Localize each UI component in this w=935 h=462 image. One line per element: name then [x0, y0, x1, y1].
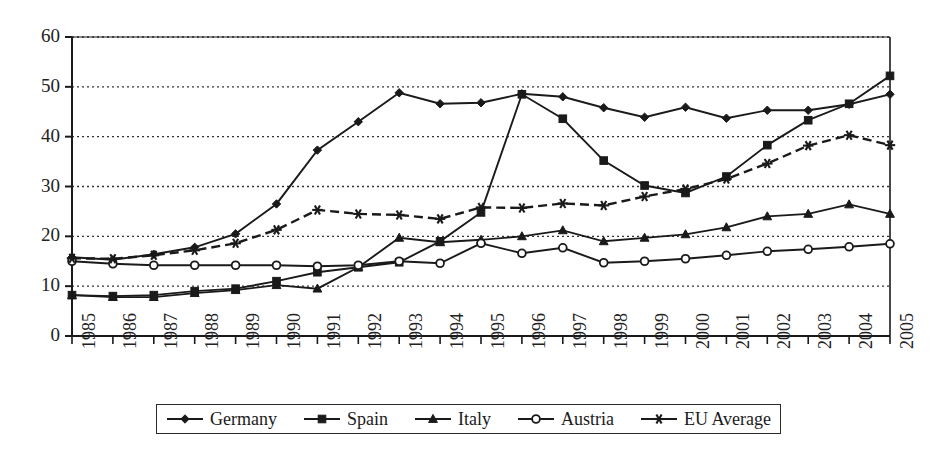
diamond-marker-icon [436, 100, 444, 108]
asterisk-marker-icon [639, 192, 649, 201]
x-axis-tick-label: 1997 [570, 313, 591, 349]
circle-marker-icon [314, 262, 322, 270]
chart-figure: 0102030405060 19851986198719881989199019… [0, 0, 935, 462]
asterisk-marker-icon [517, 203, 527, 212]
circle-marker-icon [273, 261, 281, 269]
circle-marker-icon [517, 411, 555, 427]
legend-item-germany[interactable]: Germany [166, 409, 277, 430]
x-axis-tick-label: 1994 [447, 313, 468, 349]
legend-item-spain[interactable]: Spain [303, 409, 388, 430]
diamond-marker-icon [166, 411, 204, 427]
x-axis-tick-label: 1995 [488, 313, 509, 349]
x-axis-tick-label: 1985 [79, 313, 100, 349]
asterisk-marker-icon [271, 225, 281, 234]
x-axis-tick-label: 1988 [202, 313, 223, 349]
circle-marker-icon [845, 243, 853, 251]
x-axis-tick-label: 1992 [365, 313, 386, 349]
legend-item-austria[interactable]: Austria [517, 409, 614, 430]
diamond-marker-icon [722, 114, 730, 122]
legend-item-eu-average[interactable]: EU Average [640, 409, 771, 430]
diamond-marker-icon [600, 104, 608, 112]
x-axis-tick-label: 1986 [120, 313, 141, 349]
asterisk-marker-icon [640, 411, 678, 427]
square-marker-icon [477, 209, 485, 217]
circle-marker-icon [532, 415, 540, 423]
x-axis-tick-label: 1998 [611, 313, 632, 349]
square-marker-icon [559, 115, 567, 123]
y-axis-tick-label: 20 [20, 224, 60, 246]
diamond-marker-icon [477, 99, 485, 107]
x-axis-tick-label: 1990 [284, 313, 305, 349]
circle-marker-icon [477, 239, 485, 247]
x-axis-tick-label: 2005 [897, 313, 918, 349]
x-axis-tick-label: 2003 [815, 313, 836, 349]
y-axis-tick-label: 30 [20, 175, 60, 197]
axis-ticks [65, 37, 890, 344]
circle-marker-icon [763, 247, 771, 255]
circle-marker-icon [641, 257, 649, 265]
x-axis-tick-label: 2002 [774, 313, 795, 349]
triangle-marker-icon [845, 200, 854, 208]
x-axis-tick-label: 1989 [243, 313, 264, 349]
x-axis-tick-label: 1999 [652, 313, 673, 349]
circle-marker-icon [436, 259, 444, 267]
triangle-marker-icon [558, 226, 567, 234]
circle-marker-icon [395, 257, 403, 265]
x-axis-tick-label: 1987 [161, 313, 182, 349]
square-marker-icon [518, 91, 526, 99]
circle-marker-icon [109, 260, 117, 268]
asterisk-marker-icon [844, 131, 854, 140]
legend-label: Italy [458, 409, 491, 430]
triangle-marker-icon [414, 411, 452, 427]
diamond-marker-icon [886, 90, 894, 98]
legend-label: Austria [561, 409, 614, 430]
circle-marker-icon [354, 261, 362, 269]
square-marker-icon [764, 141, 772, 149]
asterisk-marker-icon [394, 210, 404, 219]
circle-marker-icon [232, 261, 240, 269]
circle-marker-icon [191, 261, 199, 269]
legend-item-italy[interactable]: Italy [414, 409, 491, 430]
asterisk-marker-icon [558, 199, 568, 208]
square-marker-icon [303, 411, 341, 427]
circle-marker-icon [150, 261, 158, 269]
x-axis-tick-label: 2004 [856, 313, 877, 349]
line-chart-canvas [0, 0, 935, 462]
square-marker-icon [845, 100, 853, 108]
circle-marker-icon [518, 249, 526, 257]
circle-marker-icon [723, 251, 731, 259]
asterisk-marker-icon [312, 205, 322, 214]
diamond-marker-icon [681, 103, 689, 111]
x-axis-tick-label: 1993 [406, 313, 427, 349]
square-marker-icon [641, 182, 649, 190]
legend-label: Germany [210, 409, 277, 430]
legend-label: EU Average [684, 409, 771, 430]
square-marker-icon [318, 415, 326, 423]
y-axis-tick-label: 10 [20, 274, 60, 296]
circle-marker-icon [682, 255, 690, 263]
x-axis-tick-label: 2001 [733, 313, 754, 349]
asterisk-marker-icon [762, 159, 772, 168]
circle-marker-icon [559, 244, 567, 252]
chart-legend: GermanySpainItalyAustriaEU Average [156, 404, 781, 434]
y-axis-tick-label: 40 [20, 125, 60, 147]
asterisk-marker-icon [230, 239, 240, 248]
diamond-marker-icon [181, 415, 189, 423]
asterisk-marker-icon [599, 201, 609, 210]
asterisk-marker-icon [353, 209, 363, 218]
circle-marker-icon [600, 259, 608, 267]
diamond-marker-icon [559, 93, 567, 101]
square-marker-icon [886, 72, 894, 80]
legend-label: Spain [347, 409, 388, 430]
y-axis-tick-label: 50 [20, 75, 60, 97]
asterisk-marker-icon [803, 141, 813, 150]
x-axis-tick-label: 1991 [324, 313, 345, 349]
data-series-layer [67, 72, 895, 300]
square-marker-icon [804, 116, 812, 124]
x-axis-tick-label: 2000 [693, 313, 714, 349]
diamond-marker-icon [640, 113, 648, 121]
circle-marker-icon [804, 245, 812, 253]
asterisk-marker-icon [654, 414, 664, 423]
y-axis-tick-label: 60 [20, 25, 60, 47]
square-marker-icon [600, 157, 608, 165]
